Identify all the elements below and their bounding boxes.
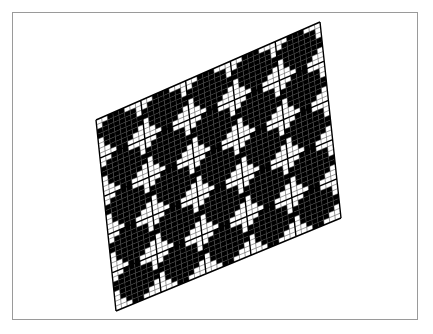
figure-root	[0, 0, 433, 334]
fractal-tiling-plot	[0, 0, 433, 334]
